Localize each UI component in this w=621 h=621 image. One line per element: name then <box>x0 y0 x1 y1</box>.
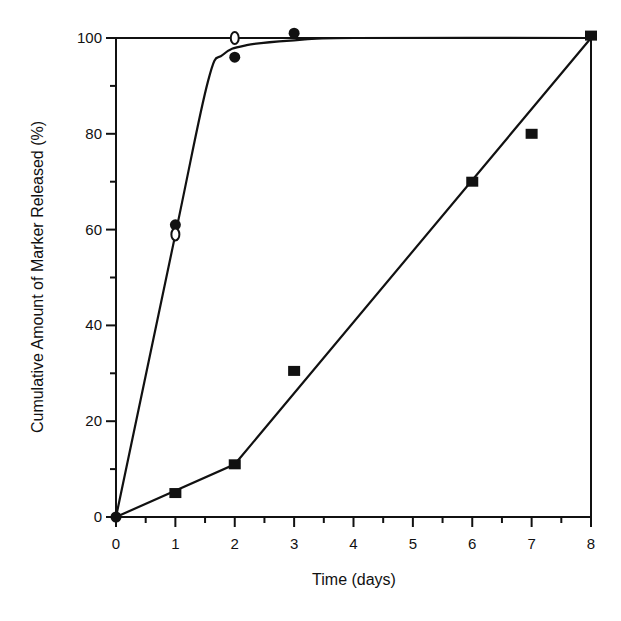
y-tick-label: 0 <box>94 508 102 525</box>
x-tick-label: 1 <box>171 535 179 552</box>
x-tick-label: 6 <box>468 535 476 552</box>
fast-release-fit-line <box>116 38 591 517</box>
x-axis-title: Time (days) <box>312 571 396 588</box>
open-circle-marker <box>171 228 179 240</box>
x-tick-label: 4 <box>349 535 357 552</box>
release-chart: 012345678 020406080100 Time (days) Cumul… <box>0 0 621 621</box>
filled-circle-marker <box>289 28 300 39</box>
data-markers <box>111 28 598 523</box>
fit-curves <box>116 38 591 517</box>
x-tick-label: 3 <box>290 535 298 552</box>
x-tick-label: 5 <box>409 535 417 552</box>
filled-square-marker <box>585 31 597 41</box>
open-circle-marker <box>231 32 239 44</box>
filled-square-marker <box>526 129 538 139</box>
chart-container: 012345678 020406080100 Time (days) Cumul… <box>0 0 621 621</box>
x-axis-ticks: 012345678 <box>112 517 595 552</box>
y-axis-ticks: 020406080100 <box>77 29 116 525</box>
y-tick-label: 40 <box>85 316 102 333</box>
y-tick-label: 60 <box>85 221 102 238</box>
y-tick-label: 20 <box>85 412 102 429</box>
filled-square-marker <box>229 459 241 469</box>
filled-circle-marker <box>229 52 240 63</box>
filled-circle-marker <box>111 512 122 523</box>
y-tick-label: 100 <box>77 29 102 46</box>
x-tick-label: 7 <box>527 535 535 552</box>
x-tick-label: 0 <box>112 535 120 552</box>
plot-area-border <box>116 38 591 517</box>
plot-frame <box>116 38 591 517</box>
filled-square-marker <box>466 177 478 187</box>
y-axis-title: Cumulative Amount of Marker Released (%) <box>29 121 46 433</box>
x-tick-label: 8 <box>587 535 595 552</box>
y-tick-label: 80 <box>85 125 102 142</box>
slow-release-fit-line <box>116 38 591 517</box>
filled-square-marker <box>288 366 300 376</box>
x-tick-label: 2 <box>231 535 239 552</box>
filled-square-marker <box>169 488 181 498</box>
